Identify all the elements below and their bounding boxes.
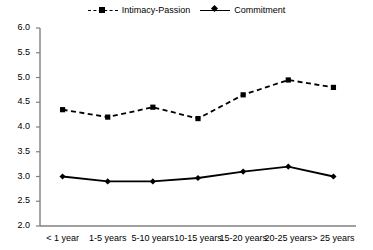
- y-axis-tick-label: 3.0: [6, 172, 30, 181]
- data-point-marker: [150, 178, 156, 184]
- data-point-marker: [331, 85, 336, 90]
- y-axis-tick-label: 4.0: [6, 122, 30, 131]
- y-axis-tick-label: 2.0: [6, 221, 30, 230]
- x-axis-tick-label: 5-10 years: [132, 234, 175, 243]
- y-axis-tick-label: 6.0: [6, 23, 30, 32]
- data-point-marker: [105, 115, 110, 120]
- data-point-marker: [150, 105, 155, 110]
- data-point-marker: [240, 168, 246, 174]
- y-axis-tick-label: 2.5: [6, 196, 30, 205]
- series-line-intimacy-passion: [63, 80, 334, 119]
- data-point-marker: [286, 77, 291, 82]
- data-point-marker: [60, 107, 65, 112]
- data-point-marker: [285, 164, 291, 170]
- x-axis-tick-label: 20-25 years: [265, 234, 313, 243]
- data-point-marker: [241, 92, 246, 97]
- y-axis-tick-label: 5.5: [6, 48, 30, 57]
- data-point-marker: [330, 173, 336, 179]
- data-point-marker: [105, 178, 111, 184]
- plot-svg: [0, 0, 373, 250]
- x-axis-tick-label: 10-15 years: [174, 234, 222, 243]
- data-point-marker: [59, 173, 65, 179]
- y-axis-tick-label: 4.5: [6, 97, 30, 106]
- line-chart: Intimacy-Passion Commitment 2.02.53.03.5…: [0, 0, 373, 250]
- x-axis-tick-label: > 25 years: [312, 234, 354, 243]
- x-axis-tick-label: 1-5 years: [89, 234, 127, 243]
- plot-area: 2.02.53.03.54.04.55.05.56.0< 1 year1-5 y…: [0, 0, 373, 250]
- y-axis-tick-label: 3.5: [6, 147, 30, 156]
- data-point-marker: [195, 175, 201, 181]
- data-point-marker: [195, 116, 200, 121]
- x-axis-tick-label: 15-20 years: [219, 234, 267, 243]
- y-axis-tick-label: 5.0: [6, 73, 30, 82]
- x-axis-tick-label: < 1 year: [46, 234, 79, 243]
